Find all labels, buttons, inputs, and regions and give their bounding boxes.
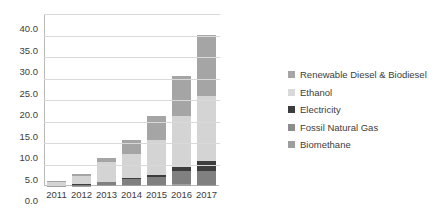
legend-swatch-icon xyxy=(288,106,295,113)
bar-segment[interactable] xyxy=(122,154,141,178)
y-axis-tick-label: 20.0 xyxy=(2,109,38,120)
bar-segment[interactable] xyxy=(147,116,166,141)
gridline xyxy=(44,79,220,80)
y-axis-tick-label: 0.0 xyxy=(2,195,38,206)
bar-segment[interactable] xyxy=(122,140,141,154)
legend-item-label: Fossil Natural Gas xyxy=(300,123,378,133)
gridline xyxy=(44,143,220,144)
bar-segment[interactable] xyxy=(197,35,216,96)
legend-swatch-icon xyxy=(288,124,295,131)
bar-column[interactable] xyxy=(72,174,91,186)
bar-segment[interactable] xyxy=(147,140,166,174)
bar-column[interactable] xyxy=(172,76,191,186)
bar-segment[interactable] xyxy=(172,76,191,116)
bar-segment[interactable] xyxy=(197,171,216,185)
gridline xyxy=(44,14,220,15)
bar-segment[interactable] xyxy=(172,184,191,186)
y-axis-tick-label: 15.0 xyxy=(2,130,38,141)
bar-segment[interactable] xyxy=(197,161,216,171)
legend-item[interactable]: Electricity xyxy=(288,101,442,119)
bar-segment[interactable] xyxy=(172,171,191,185)
gridline xyxy=(44,36,220,37)
y-axis-tick-label: 5.0 xyxy=(2,173,38,184)
y-axis-tick-label: 40.0 xyxy=(2,23,38,34)
y-axis-tick-label: 25.0 xyxy=(2,87,38,98)
bar-segment[interactable] xyxy=(97,185,116,186)
bar-segment[interactable] xyxy=(72,176,91,184)
bar-segment[interactable] xyxy=(147,185,166,186)
legend-item[interactable]: Ethanol xyxy=(288,84,442,102)
legend-swatch-icon xyxy=(288,141,295,148)
legend-swatch-icon xyxy=(288,89,295,96)
legend-item[interactable]: Fossil Natural Gas xyxy=(288,119,442,137)
gridline xyxy=(44,100,220,101)
y-axis-tick-label: 30.0 xyxy=(2,66,38,77)
bar-segment[interactable] xyxy=(172,116,191,167)
bar-column[interactable] xyxy=(97,158,116,186)
y-axis-tick-label: 35.0 xyxy=(2,44,38,55)
legend-item-label: Ethanol xyxy=(300,88,332,98)
bar-segment[interactable] xyxy=(197,96,216,161)
gridline xyxy=(44,165,220,166)
legend-item-label: Electricity xyxy=(300,105,341,115)
bar-segment[interactable] xyxy=(122,185,141,186)
bar-segment[interactable] xyxy=(197,185,216,186)
bar-column[interactable] xyxy=(147,116,166,186)
legend-item[interactable]: Renewable Diesel & Biodiesel xyxy=(288,66,442,84)
gridline xyxy=(44,122,220,123)
y-axis-tick-label: 10.0 xyxy=(2,152,38,163)
bar-segment[interactable] xyxy=(147,177,166,184)
chart-container: 0.05.010.015.020.025.030.035.040.0 20112… xyxy=(0,0,444,222)
legend-item-label: Renewable Diesel & Biodiesel xyxy=(300,70,427,80)
chart-legend: Renewable Diesel & BiodieselEthanolElect… xyxy=(288,66,442,154)
bar-column[interactable] xyxy=(47,181,66,186)
legend-swatch-icon xyxy=(288,71,295,78)
legend-item-label: Biomethane xyxy=(300,140,351,150)
x-axis-tick-label: 2017 xyxy=(187,189,227,200)
gridline xyxy=(44,57,220,58)
legend-item[interactable]: Biomethane xyxy=(288,136,442,154)
bar-column[interactable] xyxy=(122,140,141,186)
plot-area xyxy=(44,14,219,186)
